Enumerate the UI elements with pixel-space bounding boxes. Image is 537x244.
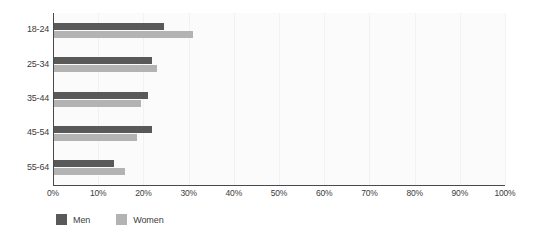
bar-55-64-women[interactable] [53,168,125,175]
gridline-60% [324,13,325,185]
x-axis-line [53,185,505,186]
legend-item-women[interactable]: Women [116,214,163,225]
bar-35-44-men[interactable] [53,92,148,99]
bar-35-44-women[interactable] [53,100,141,107]
category-label-18-24: 18-24 [5,24,49,34]
chart-legend: Men Women [56,214,164,225]
y-axis-line [53,13,54,185]
x-tick-40%: 40% [214,188,254,198]
x-tick-10%: 10% [78,188,118,198]
category-label-35-44: 35-44 [5,93,49,103]
legend-label-men: Men [73,215,90,225]
bar-18-24-men[interactable] [53,23,164,30]
men-swatch-icon [56,214,67,225]
x-tick-70%: 70% [349,188,389,198]
legend-label-women: Women [133,215,163,225]
bar-45-54-men[interactable] [53,126,152,133]
category-label-45-54: 45-54 [5,127,49,137]
x-axis-tick-labels: 0%10%20%30%40%50%60%70%80%90%100% [0,188,537,202]
plot-area [53,13,505,185]
x-tick-80%: 80% [395,188,435,198]
gridline-40% [234,13,235,185]
category-label-55-64: 55-64 [5,162,49,172]
x-tick-30%: 30% [169,188,209,198]
x-tick-90%: 90% [440,188,480,198]
gridline-50% [279,13,280,185]
x-tick-0%: 0% [33,188,73,198]
category-label-25-34: 25-34 [5,59,49,69]
gridline-30% [189,13,190,185]
x-tick-100%: 100% [485,188,525,198]
bar-25-34-men[interactable] [53,57,152,64]
gridline-80% [415,13,416,185]
gridline-70% [369,13,370,185]
x-tick-20%: 20% [123,188,163,198]
legend-item-men[interactable]: Men [56,214,90,225]
bar-45-54-women[interactable] [53,134,137,141]
gridline-100% [505,13,506,185]
category-axis-labels: 18-2425-3435-4445-5455-64 [0,13,49,185]
gridline-90% [460,13,461,185]
x-tick-50%: 50% [259,188,299,198]
x-tick-60%: 60% [304,188,344,198]
bar-chart: 18-2425-3435-4445-5455-64 0%10%20%30%40%… [0,0,537,244]
bar-18-24-women[interactable] [53,31,193,38]
women-swatch-icon [116,214,127,225]
bar-55-64-men[interactable] [53,160,114,167]
bar-25-34-women[interactable] [53,65,157,72]
gridline-20% [143,13,144,185]
